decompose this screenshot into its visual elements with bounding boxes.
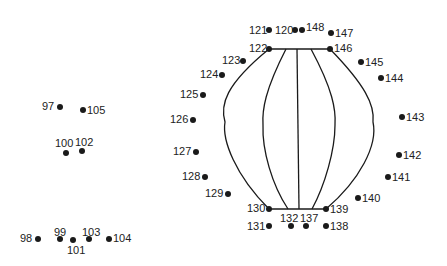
dot-label-99: 99: [54, 227, 66, 238]
dot-127: [193, 149, 199, 155]
dot-102: [79, 148, 85, 154]
dot-126: [190, 117, 196, 123]
dot-label-125: 125: [180, 89, 198, 100]
dot-label-104: 104: [113, 233, 131, 244]
dot-label-137: 137: [300, 213, 318, 224]
dot-label-122: 122: [249, 43, 267, 54]
dot-label-147: 147: [335, 28, 353, 39]
dot-label-123: 123: [222, 55, 240, 66]
dot-100: [63, 150, 69, 156]
dot-label-141: 141: [392, 172, 410, 183]
dot-144: [378, 75, 384, 81]
dot-125: [200, 92, 206, 98]
dot-128: [202, 174, 208, 180]
dot-label-127: 127: [173, 146, 191, 157]
inner-left-curve: [263, 49, 288, 209]
dot-label-131: 131: [247, 221, 265, 232]
outer-right-curve: [326, 49, 374, 209]
dot-label-103: 103: [82, 227, 100, 238]
dot-98: [35, 236, 41, 242]
dot-label-138: 138: [330, 221, 348, 232]
dot-label-97: 97: [42, 101, 54, 112]
dot-label-105: 105: [87, 105, 105, 116]
dot-label-132: 132: [280, 213, 298, 224]
dot-130: [266, 206, 272, 212]
dot-142: [396, 152, 402, 158]
dot-123: [240, 58, 246, 64]
inner-right-curve: [311, 49, 335, 209]
lantern-outline-drawing: [0, 0, 447, 266]
dot-101: [70, 237, 76, 243]
dot-label-142: 142: [403, 150, 421, 161]
dot-label-121: 121: [249, 25, 267, 36]
dot-label-124: 124: [200, 69, 218, 80]
dot-139: [323, 206, 329, 212]
dot-129: [225, 191, 231, 197]
dot-147: [328, 30, 334, 36]
dot-label-145: 145: [365, 57, 383, 68]
dot-label-143: 143: [406, 112, 424, 123]
dot-146: [327, 46, 333, 52]
dot-141: [385, 174, 391, 180]
center-line: [297, 49, 299, 209]
dot-97: [57, 104, 63, 110]
dot-label-128: 128: [182, 171, 200, 182]
dot-label-130: 130: [247, 203, 265, 214]
outer-left-curve: [223, 49, 269, 209]
dot-138: [323, 223, 329, 229]
dot-148: [299, 27, 305, 33]
dot-label-100: 100: [55, 138, 73, 149]
dot-105: [80, 107, 86, 113]
dot-label-101: 101: [67, 245, 85, 256]
dot-label-98: 98: [20, 233, 32, 244]
dot-label-126: 126: [170, 114, 188, 125]
dot-131: [266, 223, 272, 229]
dot-143: [399, 114, 405, 120]
dot-label-146: 146: [334, 43, 352, 54]
dot-label-120: 120: [275, 25, 293, 36]
dot-label-148: 148: [306, 22, 324, 33]
dot-140: [355, 195, 361, 201]
dot-124: [219, 72, 225, 78]
dot-label-139: 139: [330, 204, 348, 215]
dot-145: [358, 59, 364, 65]
dot-label-144: 144: [385, 73, 403, 84]
dot-label-102: 102: [75, 137, 93, 148]
dot-label-140: 140: [362, 193, 380, 204]
dot-104: [106, 236, 112, 242]
dot-puzzle-canvas: 9710510010298991011031041211201481471221…: [0, 0, 447, 266]
dot-label-129: 129: [205, 188, 223, 199]
